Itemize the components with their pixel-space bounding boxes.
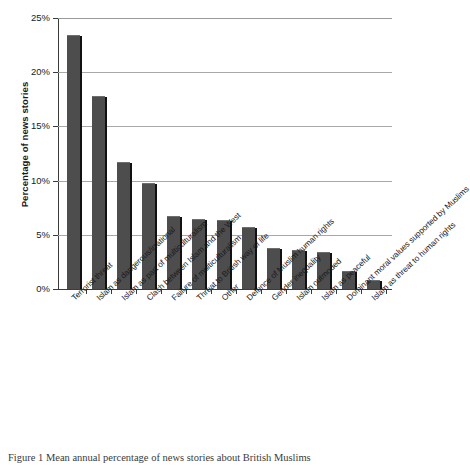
x-axis-label: Dominant moral values supported by Musli… bbox=[345, 184, 470, 302]
plot-top-border bbox=[58, 18, 392, 19]
y-axis-tick-label: 15% bbox=[6, 121, 50, 131]
bar-shadow bbox=[180, 217, 182, 289]
y-axis-tick-label: 5% bbox=[6, 230, 50, 240]
y-axis-tick-label: 10% bbox=[6, 176, 50, 186]
y-axis-tick-label: 20% bbox=[6, 67, 50, 77]
bar bbox=[92, 96, 105, 289]
y-axis-tick-mark bbox=[53, 289, 58, 290]
figure-caption: Figure 1 Mean annual percentage of news … bbox=[8, 452, 396, 463]
bar bbox=[67, 35, 80, 289]
bar-shadow bbox=[80, 36, 82, 289]
bar-shadow bbox=[230, 221, 232, 289]
bar-shadow bbox=[205, 220, 207, 289]
gridline bbox=[58, 126, 392, 127]
y-axis-tick-mark bbox=[53, 18, 58, 19]
y-axis-tick-label: 25% bbox=[6, 13, 50, 23]
y-axis-tick-label: 0% bbox=[6, 284, 50, 294]
y-axis-tick-mark bbox=[53, 181, 58, 182]
y-axis-tick-mark bbox=[53, 72, 58, 73]
gridline bbox=[58, 72, 392, 73]
gridline bbox=[58, 181, 392, 182]
y-axis-tick-mark bbox=[53, 126, 58, 127]
y-axis-line bbox=[58, 18, 59, 290]
y-axis-tick-mark bbox=[53, 235, 58, 236]
